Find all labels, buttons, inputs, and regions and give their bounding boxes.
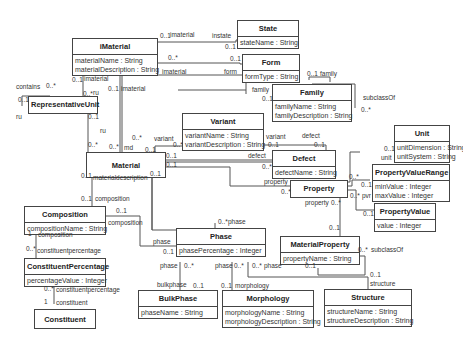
class-name: Variant (183, 114, 263, 129)
class-attributes: minValue : Integer maxValue : Integer (373, 180, 449, 201)
attribute: unitSystem : String (397, 152, 447, 161)
class-imaterial[interactable]: iMaterial materialName : String material… (72, 38, 158, 76)
role-label: imaterial (170, 31, 195, 39)
class-property[interactable]: Property (290, 180, 348, 198)
class-constituent[interactable]: Constituent (34, 309, 96, 329)
role-label: materialdescription (93, 174, 148, 182)
class-attributes: stateName : String (238, 36, 298, 48)
role-label: structure (370, 280, 395, 288)
multiplicity: 0..1 (384, 145, 395, 153)
class-propertyvalue[interactable]: PropertyValue value : Integer (374, 203, 436, 232)
attribute: structureDescription : String (327, 316, 409, 325)
multiplicity: 0..1 (230, 55, 241, 63)
class-name: Phase (177, 229, 265, 244)
class-structure[interactable]: Structure structureName : String structu… (324, 289, 412, 327)
multiplicity: 0..* (361, 106, 371, 114)
multiplicity: 0..1 (163, 248, 174, 256)
attribute: unitDimension : String (397, 143, 447, 152)
role-label: bulkphase (157, 281, 187, 289)
class-name: ConstituentPercentage (25, 259, 105, 274)
role-label: constituentpercentage (56, 286, 120, 294)
multiplicity: 0..1 (221, 282, 232, 290)
role-label: subclassOf (363, 94, 395, 102)
attribute: percentageValue : Integer (27, 276, 103, 285)
class-attributes: morphologyName : String morphologyDescri… (223, 306, 313, 327)
role-label: pvr (362, 192, 371, 200)
class-constituentpercentage[interactable]: ConstituentPercentage percentageValue : … (24, 258, 106, 287)
class-name: Constituent (35, 310, 95, 327)
multiplicity: 0..* (331, 199, 341, 207)
role-label: phase (215, 262, 233, 270)
class-unit[interactable]: Unit unitDimension : String unitSystem :… (394, 125, 450, 163)
attribute: propertyName : String (283, 254, 357, 263)
role-label: instate (212, 32, 231, 40)
multiplicity: 0..* (26, 245, 36, 253)
class-phase[interactable]: Phase phasePercentage : Integer (176, 228, 266, 257)
role-label: composition (38, 231, 73, 239)
role-label: defect (248, 152, 266, 160)
class-name: Morphology (223, 291, 313, 306)
role-label: family (320, 70, 337, 78)
attribute: minValue : Integer (375, 182, 447, 191)
class-bulkphase[interactable]: BulkPhase phaseName : String (138, 290, 218, 319)
class-materialproperty[interactable]: MaterialProperty propertyName : String (280, 236, 360, 265)
multiplicity: 1 (44, 298, 48, 306)
class-attributes: unitDimension : String unitSystem : Stri… (395, 141, 449, 162)
class-family[interactable]: Family familyName : String familyDescrip… (272, 84, 352, 122)
multiplicity: 0..* (184, 262, 194, 270)
role-label: variant (154, 135, 174, 143)
class-name: Composition (25, 207, 105, 222)
multiplicity: 0..1 (72, 76, 83, 84)
multiplicity: 0..1 (193, 282, 204, 290)
role-label: composition (108, 219, 143, 227)
attribute: materialDescription : String (75, 65, 155, 74)
class-name: Structure (325, 290, 411, 305)
class-name: Form (243, 55, 299, 70)
role-label: imaterial (121, 85, 146, 93)
role-label: subclassOf (371, 246, 403, 254)
role-label: phase (153, 238, 171, 246)
multiplicity: 0..1 (225, 43, 236, 51)
role-label: ru (93, 89, 99, 97)
class-morphology[interactable]: Morphology morphologyName : String morph… (222, 290, 314, 328)
class-attributes: percentageValue : Integer (25, 274, 105, 286)
multiplicity: 0..1 (81, 195, 92, 203)
class-variant[interactable]: Variant variantName : String variantDesc… (182, 113, 264, 151)
class-name: iMaterial (73, 39, 157, 54)
role-label: ru (100, 127, 106, 135)
role-label: md (124, 144, 133, 152)
class-name: PropertyValue (375, 204, 435, 219)
class-form[interactable]: Form formType : String (242, 54, 300, 83)
class-representativeunit[interactable]: RepresentativeUnit (28, 96, 98, 114)
class-name: Unit (395, 126, 449, 141)
multiplicity: 0..1 (166, 152, 177, 160)
multiplicity: 0..1 (145, 146, 156, 154)
attribute: morphologyName : String (225, 308, 311, 317)
class-defect[interactable]: Defect defectName : String (272, 150, 336, 179)
class-attributes: familyName : String familyDescription : … (273, 100, 351, 121)
role-label: phase (228, 218, 246, 226)
multiplicity: 0..* (358, 246, 368, 254)
multiplicity: 0..* (132, 134, 142, 142)
class-name: Family (273, 85, 351, 100)
role-label: morphology (235, 282, 269, 290)
multiplicity: 0..* (349, 173, 359, 181)
class-attributes: variantName : String variantDescription … (183, 129, 263, 150)
attribute: structureName : String (327, 307, 409, 316)
role-label: defect (302, 132, 320, 140)
role-label: imaterial (84, 75, 109, 83)
role-label: phase (160, 262, 178, 270)
class-attributes: value : Integer (375, 219, 435, 231)
class-name: PropertyValueRange (373, 165, 449, 180)
multiplicity: 0..1 (314, 141, 325, 149)
role-label: contains (16, 83, 40, 91)
attribute: morphologyDescription : String (225, 317, 311, 326)
class-state[interactable]: State stateName : String (237, 20, 299, 49)
class-attributes: defectName : String (273, 166, 335, 178)
class-name: MaterialProperty (281, 237, 359, 252)
class-attributes: formType : String (243, 70, 299, 82)
class-propertyvaluerange[interactable]: PropertyValueRange minValue : Integer ma… (372, 164, 450, 202)
role-label: unit (381, 154, 391, 162)
multiplicity: 0..* (234, 262, 244, 270)
multiplicity: 0..* (46, 82, 56, 90)
